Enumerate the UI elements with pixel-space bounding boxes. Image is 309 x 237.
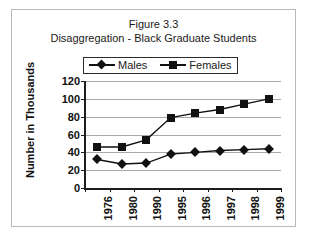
- legend-entry-females: Females: [160, 59, 231, 71]
- data-point-females-1980: [118, 143, 126, 151]
- x-axis-tick-mark: [232, 188, 233, 192]
- legend-entry-males: Males: [89, 59, 147, 71]
- legend-label-females: Females: [189, 59, 231, 71]
- x-axis-tick-mark: [110, 188, 111, 192]
- y-axis-tick-label: 80: [68, 111, 80, 123]
- data-point-females-1976: [93, 143, 101, 151]
- data-point-females-1995: [167, 114, 175, 122]
- data-point-females-1999: [265, 95, 273, 103]
- legend-label-males: Males: [118, 59, 147, 71]
- x-axis-tick-label: 1999: [274, 196, 286, 220]
- figure-frame: Figure 3.3 Disaggregation - Black Gradua…: [11, 9, 296, 227]
- x-axis-tick-mark: [85, 188, 86, 192]
- x-axis-tick-label: 1997: [225, 196, 237, 220]
- y-axis-tick-label: 40: [68, 146, 80, 158]
- data-point-females-1997: [216, 106, 224, 114]
- x-axis-tick-label: 1990: [151, 196, 163, 220]
- y-axis-tick-label: 0: [74, 182, 80, 194]
- square-marker-icon: [160, 60, 186, 70]
- x-axis-tick-label: 1980: [127, 196, 139, 220]
- data-point-females-1996: [191, 109, 199, 117]
- diamond-marker-icon: [89, 60, 115, 70]
- x-axis-tick-label: 1998: [249, 196, 261, 220]
- y-axis-tick-label: 60: [68, 129, 80, 141]
- series-lines: [85, 81, 281, 188]
- data-point-females-1998: [240, 100, 248, 108]
- x-axis-tick-mark: [159, 188, 160, 192]
- data-point-females-1990: [142, 136, 150, 144]
- chart-legend: Males Females: [83, 57, 238, 74]
- y-axis-tick-label: 20: [68, 164, 80, 176]
- x-axis-tick-mark: [281, 188, 282, 192]
- plot-area: 020406080100120 197619801990199519961997…: [85, 81, 281, 188]
- y-axis-tick-label: 120: [62, 75, 80, 87]
- x-axis-tick-mark: [183, 188, 184, 192]
- y-axis-tick-label: 100: [62, 93, 80, 105]
- x-axis-tick-label: 1996: [200, 196, 212, 220]
- x-axis-tick-mark: [208, 188, 209, 192]
- chart-title-line-2: Disaggregation - Black Graduate Students: [12, 31, 295, 45]
- x-axis-tick-mark: [134, 188, 135, 192]
- x-axis-tick-mark: [257, 188, 258, 192]
- chart-title-line-1: Figure 3.3: [12, 18, 295, 31]
- x-axis-tick-label: 1995: [176, 196, 188, 220]
- chart-title: Figure 3.3 Disaggregation - Black Gradua…: [12, 18, 295, 45]
- x-axis-tick-label: 1976: [102, 196, 114, 220]
- y-axis-title: Number in Thousands: [24, 60, 36, 180]
